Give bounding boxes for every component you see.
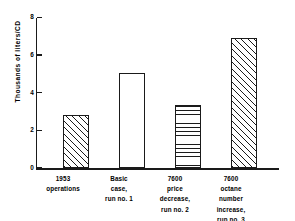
x-category-label-line: run no. 3 bbox=[196, 215, 266, 221]
plot-area: 0 2 4 6 8 bbox=[36, 18, 279, 170]
bar-basic-case-run-no-1 bbox=[119, 73, 145, 168]
bar-7600-price-decrease-run-no-2 bbox=[175, 105, 201, 169]
y-tick-label-3: 6 bbox=[30, 52, 34, 58]
bar-chart-figure: Thousands of liters/CD 0 2 4 6 8 bbox=[0, 0, 295, 221]
y-tick-label-0: 0 bbox=[30, 165, 34, 171]
y-tick-label-4: 8 bbox=[30, 14, 34, 20]
bar-series bbox=[37, 18, 279, 168]
x-category-label-line: octane bbox=[196, 184, 266, 194]
y-axis-title: Thousands of liters/CD bbox=[14, 0, 21, 132]
y-tick-label-2: 4 bbox=[30, 89, 34, 95]
x-category-label-line: increase, bbox=[196, 205, 266, 215]
bar-1953-operations bbox=[63, 115, 89, 168]
x-category-label-3: 7600octanenumberincrease,run no. 3 bbox=[196, 174, 266, 221]
x-category-label-line: number bbox=[196, 194, 266, 204]
x-category-label-line: 7600 bbox=[196, 174, 266, 184]
x-axis-line bbox=[36, 168, 279, 170]
bar-7600-octane-number-increase-run-no-3 bbox=[231, 38, 257, 168]
y-tick-label-1: 2 bbox=[30, 127, 34, 133]
